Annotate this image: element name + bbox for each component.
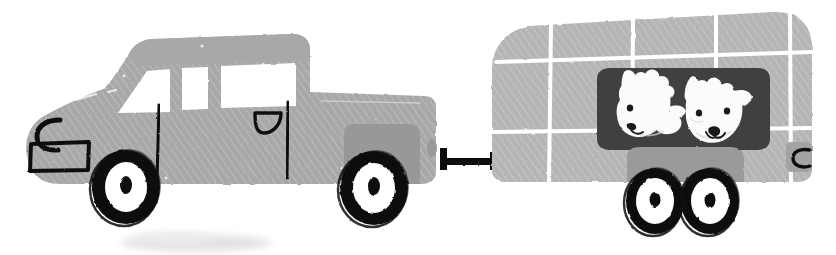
front-wheel[interactable] [90, 150, 160, 226]
rear-latch[interactable] [786, 142, 812, 172]
livestock-trailer [492, 12, 812, 236]
rear-window [221, 63, 296, 108]
pickup-truck [26, 34, 437, 227]
rear-wheel[interactable] [338, 151, 408, 227]
trailer-wheel-rear[interactable] [679, 168, 739, 236]
tail-light [427, 139, 437, 157]
ground-shadow [120, 232, 272, 251]
tow-hitch [440, 148, 498, 170]
scene-svg [0, 0, 836, 255]
illustration-canvas [0, 0, 836, 255]
middle-window [182, 67, 208, 110]
trailer-wheel-front[interactable] [624, 168, 684, 236]
